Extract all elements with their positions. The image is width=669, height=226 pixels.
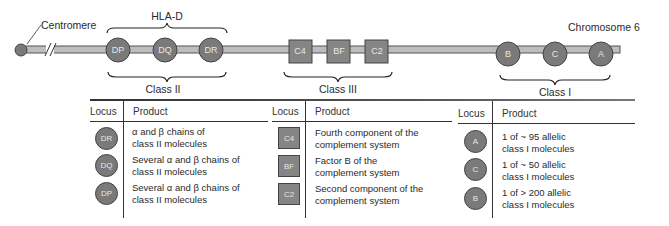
hla-d-brace bbox=[107, 23, 227, 33]
locus-square-icon: BF bbox=[278, 155, 300, 177]
class-iii-marker: C2 bbox=[365, 40, 388, 63]
class-i-locus-header: Locus bbox=[458, 108, 485, 119]
header-divider bbox=[458, 123, 635, 124]
svg-text:B: B bbox=[505, 49, 511, 59]
class-iii-marker: C4 bbox=[289, 40, 312, 63]
svg-text:C2: C2 bbox=[371, 46, 383, 56]
locus-circle-icon: B bbox=[464, 187, 487, 210]
product-cell: Second component of thecomplement system bbox=[315, 183, 455, 206]
class-ii-locus-header: Locus bbox=[90, 106, 117, 117]
locus-circle-icon: A bbox=[464, 130, 487, 153]
svg-text:DQ: DQ bbox=[158, 45, 172, 55]
locus-circle-icon: C bbox=[464, 158, 487, 181]
class-iii-product-header: Product bbox=[315, 106, 349, 117]
chromosome-diagram: Centromere HLA-D DP DQ DR Class II C4 BF… bbox=[0, 0, 669, 100]
class-i-label: Class I bbox=[539, 86, 571, 98]
class-ii-label: Class II bbox=[145, 83, 180, 95]
class-iii-brace bbox=[284, 72, 392, 82]
column-divider bbox=[305, 101, 306, 218]
header-divider bbox=[90, 121, 268, 122]
svg-text:DR: DR bbox=[205, 45, 218, 55]
class-i-product-header: Product bbox=[502, 108, 536, 119]
header-divider bbox=[272, 121, 452, 122]
product-cell: 1 of ~ 95 allelicclass I molecules bbox=[502, 131, 642, 154]
hla-loci-table: Locus Product Locus Product Locus Produc… bbox=[90, 99, 635, 219]
locus-circle-icon: DP bbox=[95, 182, 118, 205]
class-i-marker: B bbox=[496, 42, 520, 66]
product-cell: Several α and β chains ofclass II molecu… bbox=[132, 154, 272, 177]
svg-text:A: A bbox=[598, 49, 604, 59]
class-ii-marker: DQ bbox=[153, 38, 177, 62]
locus-circle-icon: DR bbox=[95, 127, 118, 150]
chromosome-label: Chromosome 6 bbox=[568, 21, 640, 33]
svg-text:DP: DP bbox=[112, 45, 125, 55]
locus-circle-icon: DQ bbox=[95, 154, 118, 177]
class-i-marker: A bbox=[589, 42, 613, 66]
product-cell: Several α and β chains ofclass II molecu… bbox=[132, 182, 272, 205]
class-i-brace bbox=[500, 75, 610, 85]
product-cell: Factor B of thecomplement system bbox=[315, 155, 455, 178]
product-cell: Fourth component of thecomplement system bbox=[315, 127, 455, 150]
class-ii-marker: DR bbox=[199, 38, 223, 62]
class-ii-marker: DP bbox=[106, 38, 130, 62]
centromere-pointer bbox=[27, 25, 41, 44]
class-ii-brace bbox=[108, 72, 226, 82]
column-divider bbox=[123, 101, 124, 218]
column-divider bbox=[492, 101, 493, 218]
class-i-marker: C bbox=[543, 42, 567, 66]
svg-text:BF: BF bbox=[333, 46, 345, 56]
table-top-border bbox=[90, 99, 635, 101]
centromere-icon bbox=[15, 44, 27, 56]
class-iii-label: Class III bbox=[319, 83, 357, 95]
svg-text:C4: C4 bbox=[294, 46, 306, 56]
product-cell: α and β chains ofclass II molecules bbox=[132, 126, 272, 149]
class-iii-marker: BF bbox=[327, 40, 350, 63]
product-cell: 1 of ~ 50 allelicclass I molecules bbox=[502, 159, 642, 182]
centromere-label: Centromere bbox=[41, 19, 97, 31]
hla-d-label: HLA-D bbox=[151, 10, 183, 22]
svg-text:C: C bbox=[552, 49, 559, 59]
class-iii-locus-header: Locus bbox=[272, 106, 299, 117]
product-cell: 1 of > 200 allelicclass I molecules bbox=[502, 187, 642, 210]
locus-square-icon: C2 bbox=[278, 183, 300, 205]
class-ii-product-header: Product bbox=[133, 106, 167, 117]
locus-square-icon: C4 bbox=[278, 127, 300, 149]
